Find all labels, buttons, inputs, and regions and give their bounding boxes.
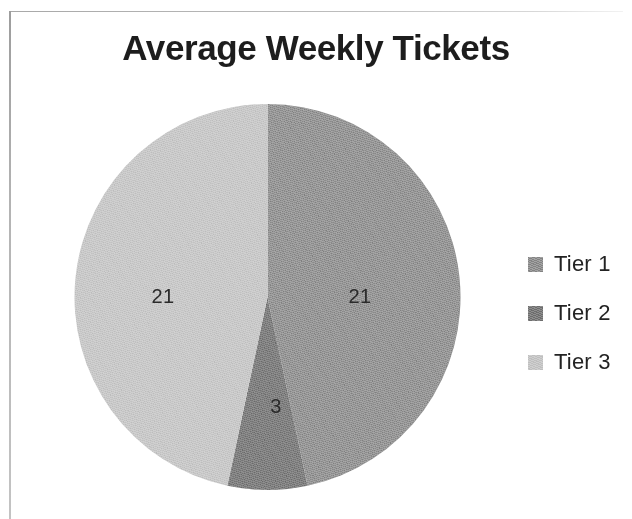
legend-item-tier-2[interactable]: Tier 2 xyxy=(528,297,611,329)
legend-swatch-icon-tier-2 xyxy=(528,306,543,321)
pie-chart-screenshot: Average Weekly Tickets 21 21 3 Tier 1 Ti… xyxy=(0,0,632,519)
pie-data-label-tier-1: 21 xyxy=(348,285,371,308)
pie-data-label-tier-2: 3 xyxy=(270,395,282,418)
legend-label-tier-1: Tier 1 xyxy=(554,251,611,277)
legend-item-tier-3[interactable]: Tier 3 xyxy=(528,346,611,378)
legend-swatch-icon-tier-1 xyxy=(528,257,543,272)
pie-slices xyxy=(75,104,461,490)
chart-legend: Tier 1 Tier 2 Tier 3 xyxy=(528,248,611,395)
legend-label-tier-2: Tier 2 xyxy=(554,300,611,326)
legend-label-tier-3: Tier 3 xyxy=(554,349,611,375)
legend-swatch-icon-tier-3 xyxy=(528,355,543,370)
legend-item-tier-1[interactable]: Tier 1 xyxy=(528,248,611,280)
pie-data-label-tier-3: 21 xyxy=(151,285,174,308)
